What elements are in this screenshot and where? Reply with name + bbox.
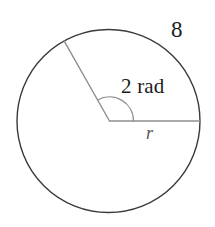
central-angle-label: 2 rad [121, 76, 165, 97]
figure-canvas [0, 0, 215, 227]
arc-length-label: 8 [171, 18, 183, 41]
geometry-figure: 8 2 rad r [0, 0, 215, 227]
radius-label: r [146, 124, 153, 142]
radius-line-terminal [64, 41, 109, 121]
